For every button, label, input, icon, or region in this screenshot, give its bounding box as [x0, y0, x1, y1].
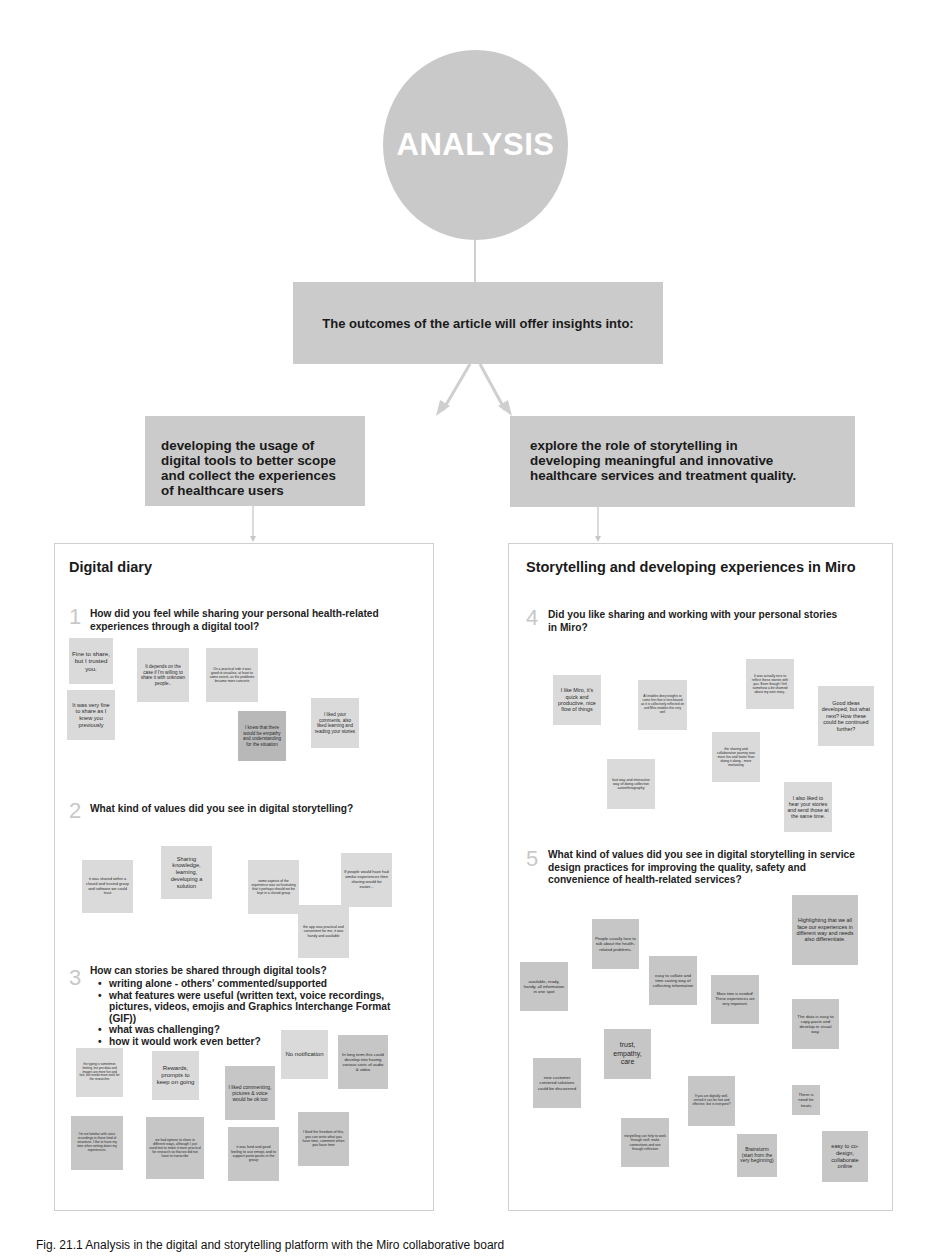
- question-3-text: How can stories be shared through digita…: [90, 965, 400, 978]
- figure-caption: Fig. 21.1 Analysis in the digital and st…: [36, 1238, 504, 1252]
- question-number-2: 2: [69, 798, 81, 824]
- branch-digital-tools: developing the usage of digital tools to…: [145, 416, 365, 506]
- sticky-note[interactable]: No notification: [281, 1030, 328, 1079]
- sticky-note[interactable]: It was actually nice to reflect these st…: [746, 659, 794, 709]
- sticky-note[interactable]: Good ideas developed, but what next? How…: [818, 686, 874, 746]
- question-number-5: 5: [526, 846, 538, 872]
- sticky-note[interactable]: the sharing and collaborative journey wa…: [712, 732, 760, 782]
- sticky-note[interactable]: I also liked to hear your stories and se…: [784, 782, 832, 832]
- sticky-note[interactable]: easy to co-design, collaborate online: [822, 1131, 868, 1182]
- branch-storytelling-box: explore the role of storytelling in deve…: [510, 416, 855, 507]
- sticky-note[interactable]: On a practical side it was good to visua…: [206, 648, 258, 702]
- sticky-note[interactable]: If people would have had similar experie…: [341, 853, 392, 907]
- panel-title-miro: Storytelling and developing experiences …: [526, 559, 856, 575]
- miro-storytelling-panel: Storytelling and developing experiences …: [508, 543, 893, 1211]
- bullet-item: what features were useful (written text,…: [95, 990, 395, 1025]
- sticky-note[interactable]: The data is easy to copy-paste and devel…: [792, 999, 839, 1049]
- sticky-note[interactable]: In long term this could develop into hav…: [338, 1035, 388, 1089]
- sticky-note[interactable]: available, ready, handy, all information…: [520, 962, 568, 1011]
- sticky-note[interactable]: It was very fine to share as I knew you …: [67, 690, 115, 740]
- sticky-note[interactable]: the typing is sometimes limiting, but ye…: [76, 1048, 123, 1097]
- bullet-item: writing alone - others' commented/suppor…: [95, 978, 395, 990]
- question-number-4: 4: [526, 605, 538, 631]
- sticky-note[interactable]: Highlighting that we all face our experi…: [792, 895, 858, 965]
- sticky-note[interactable]: it was shared within a closed and truste…: [82, 860, 133, 913]
- sticky-note[interactable]: easy to collate and time saving way of c…: [649, 956, 697, 1005]
- question-1-text: How did you feel while sharing your pers…: [90, 608, 380, 633]
- digital-diary-panel: Digital diary 1 How did you feel while s…: [54, 543, 434, 1211]
- outcomes-box: The outcomes of the article will offer i…: [293, 282, 663, 364]
- branch-storytelling-text: explore the role of storytelling in deve…: [530, 438, 800, 483]
- bullet-item: what was challenging?: [95, 1024, 395, 1036]
- analysis-circle: ANALYSIS: [383, 50, 568, 240]
- sticky-note[interactable]: It depends on the case if I'm willing to…: [137, 648, 189, 702]
- sticky-note[interactable]: storytelling can help to work through st…: [621, 1118, 669, 1167]
- outcomes-text: The outcomes of the article will offer i…: [322, 316, 633, 331]
- sticky-note[interactable]: Sharing knowledge, learning, developing …: [161, 846, 212, 899]
- question-number-1: 1: [69, 604, 81, 630]
- analysis-title: ANALYSIS: [397, 127, 555, 163]
- sticky-note[interactable]: Brainstorm (start from the very beginnin…: [737, 1134, 777, 1177]
- sticky-note[interactable]: trust, empathy, care: [604, 1029, 651, 1079]
- sticky-note[interactable]: I liked your comments, also liked learni…: [311, 698, 359, 748]
- question-number-3: 3: [69, 965, 81, 991]
- sticky-note[interactable]: People usually love to talk about the he…: [592, 919, 639, 969]
- sticky-note[interactable]: the app was practical and convenient for…: [298, 905, 349, 958]
- sticky-note[interactable]: we had options to share in different way…: [146, 1117, 204, 1179]
- sticky-note[interactable]: some aspects of the experience was so fr…: [248, 860, 299, 914]
- question-2-text: What kind of values did you see in digit…: [90, 803, 390, 816]
- sticky-note[interactable]: AI enables deep insights to come first t…: [638, 680, 687, 730]
- sticky-note[interactable]: More time is needed! These experiences a…: [711, 975, 759, 1024]
- sticky-note[interactable]: it was fund and good feeling to use emoj…: [228, 1127, 279, 1181]
- sticky-note[interactable]: I like Miro, it's quick and productive, …: [553, 675, 601, 725]
- sticky-note[interactable]: fast way and interactive way of doing co…: [607, 759, 655, 809]
- sticky-note[interactable]: I liked commenting, pictures & voice wou…: [225, 1066, 275, 1120]
- branch-digital-tools-text: developing the usage of digital tools to…: [161, 438, 336, 498]
- sticky-note[interactable]: Fine to share, but I trusted you.: [69, 638, 113, 684]
- sticky-note[interactable]: Rewards, prompts to keep on going: [152, 1051, 199, 1100]
- panel-title-digital-diary: Digital diary: [69, 559, 152, 575]
- sticky-note[interactable]: If you are digitally well-versed it can …: [688, 1076, 735, 1126]
- question-4-text: Did you like sharing and working with yo…: [548, 609, 838, 634]
- sticky-note[interactable]: new customer centered solutions could be…: [533, 1058, 581, 1108]
- sticky-note[interactable]: There is need for treats: [792, 1085, 820, 1115]
- sticky-note[interactable]: I liked the freedom of this, you can wri…: [298, 1112, 349, 1166]
- sticky-note[interactable]: I knew that there would be empathy and u…: [238, 711, 286, 761]
- sticky-note[interactable]: I'm not familiar with voice recordings i…: [71, 1116, 123, 1170]
- question-5-text: What kind of values did you see in digit…: [548, 849, 868, 887]
